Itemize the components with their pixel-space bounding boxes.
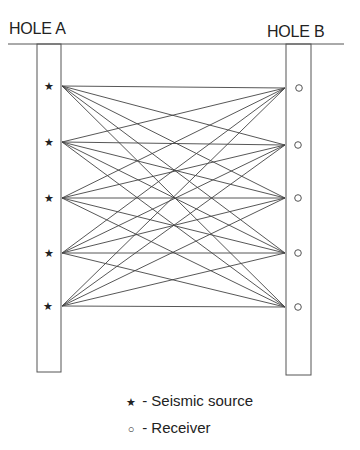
- circle-icon: [295, 304, 302, 311]
- borehole-b: [286, 44, 311, 375]
- borehole-a: [37, 44, 61, 372]
- star-icon: ★: [43, 300, 53, 313]
- star-icon: ★: [44, 192, 54, 205]
- circle-icon: [296, 85, 303, 92]
- receivers: [295, 85, 303, 311]
- seismic-sources: ★★★★★: [43, 80, 54, 313]
- circle-icon: [295, 195, 302, 202]
- ray-path: [62, 86, 285, 145]
- star-icon: ★: [44, 136, 54, 149]
- ray-path: [62, 88, 285, 142]
- ray-path: [62, 86, 285, 88]
- circle-icon: [295, 250, 302, 257]
- star-icon: ★: [44, 247, 54, 260]
- circle-icon: ○: [124, 423, 138, 435]
- ray-paths: [62, 86, 285, 307]
- circle-icon: [295, 142, 302, 149]
- legend-source-text: - Seismic source: [138, 392, 253, 409]
- legend-receiver-text: - Receiver: [138, 419, 211, 436]
- star-icon: ★: [44, 80, 54, 93]
- ray-path: [62, 306, 285, 307]
- legend-receiver: ○ - Receiver: [124, 419, 211, 436]
- legend-source: ★ - Seismic source: [124, 392, 253, 409]
- star-icon: ★: [124, 396, 138, 409]
- crosshole-diagram: ★★★★★: [0, 0, 360, 450]
